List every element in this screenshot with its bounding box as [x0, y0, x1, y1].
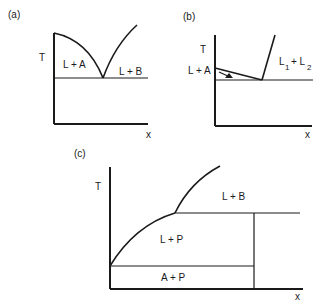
panel-c-region-a-plus-p: A + P [161, 272, 186, 283]
panel-b: (b) T x L + A L 1 + L 2 [183, 11, 313, 140]
panel-a: (a) T x L + A L + B [8, 9, 151, 140]
panel-c: (c) T x L + B L + P A + P [74, 148, 303, 302]
panel-b-x-axis-label: x [305, 129, 310, 140]
panel-a-region-l-plus-a: L + A [63, 59, 86, 70]
panel-b-region-l-plus-a: L + A [188, 65, 211, 76]
panel-c-label: (c) [74, 148, 86, 159]
panel-c-liquidus-upper [175, 166, 220, 213]
panel-b-subscript-1: 1 [285, 63, 290, 72]
panel-a-x-axis-label: x [146, 129, 151, 140]
panel-a-liquidus-a [54, 33, 103, 78]
panel-c-y-axis-label: T [95, 181, 101, 192]
panel-b-miscibility-boundary [262, 35, 275, 80]
panel-b-subscript-2: 2 [307, 63, 312, 72]
panel-a-region-l-plus-b: L + B [119, 66, 143, 77]
panel-b-label: (b) [183, 11, 195, 22]
panel-c-region-l-plus-b: L + B [222, 191, 246, 202]
panel-a-label: (a) [8, 9, 20, 20]
panel-b-y-axis-label: T [200, 44, 206, 55]
panel-a-y-axis-label: T [39, 52, 45, 63]
panel-b-region-plus-l: + L [291, 56, 306, 67]
panel-c-region-l-plus-p: L + P [160, 234, 184, 245]
panel-c-x-axis-label: x [295, 291, 300, 302]
phase-diagram-figure: (a) T x L + A L + B (b) T x L + A L 1 + … [0, 0, 316, 303]
